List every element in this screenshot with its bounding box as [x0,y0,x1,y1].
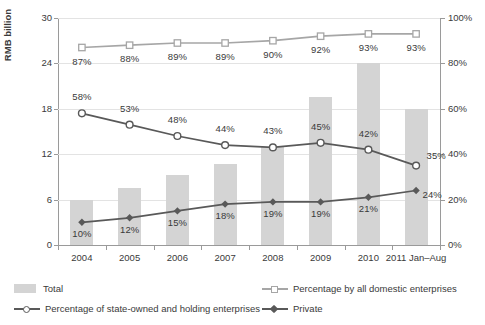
marker-open-circle [174,133,181,140]
marker-open-circle [270,144,277,151]
chart-container: RMB billion 06121824300%20%40%60%80%100%… [0,0,485,325]
legend-point [23,306,30,313]
legend-label: Private [293,303,323,314]
marker-open-circle [222,142,229,149]
legend-marker-filled-diamond [262,304,288,314]
legend-label: Percentage by all domestic enterprises [293,283,457,294]
marker-open-square [317,33,323,39]
legend-item[interactable]: Total [14,283,63,294]
marker-open-square [270,38,276,44]
marker-filled-diamond [126,214,133,221]
legend-item[interactable]: Private [262,303,323,314]
marker-open-circle [365,146,372,153]
marker-open-circle [413,162,420,169]
legend-marker-open-square [262,284,288,294]
marker-filled-diamond [221,200,228,207]
marker-filled-diamond [412,187,419,194]
legend-item[interactable]: Percentage of state-owned and holding en… [14,303,260,314]
legend-label: Total [43,283,63,294]
marker-open-square [365,31,371,37]
marker-filled-diamond [317,198,324,205]
marker-filled-diamond [269,198,276,205]
marker-open-square [126,42,132,48]
marker-open-circle [126,121,133,128]
chart-legend: TotalPercentage by all domestic enterpri… [0,281,485,325]
marker-filled-diamond [78,219,85,226]
legend-marker-open-circle [14,304,40,314]
legend-item[interactable]: Percentage by all domestic enterprises [262,283,457,294]
marker-open-square [222,40,228,46]
marker-open-square [413,31,419,37]
legend-point [270,305,278,313]
marker-open-square [174,40,180,46]
marker-open-circle [317,139,324,146]
legend-point [271,286,278,293]
line-series-layer [0,0,485,325]
legend-swatch-bar [14,284,36,293]
marker-filled-diamond [174,207,181,214]
marker-open-circle [79,110,86,117]
marker-open-square [79,44,85,50]
legend-label: Percentage of state-owned and holding en… [45,303,260,314]
line-series-path [82,113,416,165]
marker-filled-diamond [365,194,372,201]
